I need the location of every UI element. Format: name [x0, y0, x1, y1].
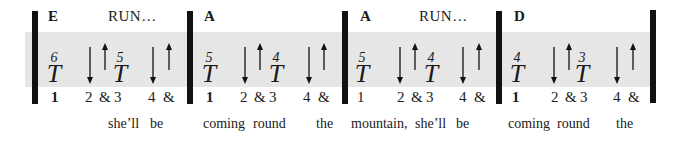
tab-note: 6 T — [44, 52, 64, 85]
beat-count: 4 — [613, 89, 621, 106]
beat-count: 1 — [512, 89, 520, 106]
bar-line — [32, 11, 38, 104]
beat-count: 4 — [303, 89, 311, 106]
up-arrow-icon — [628, 42, 638, 70]
tab-note: 4 T — [266, 52, 286, 85]
thumb-label: T — [44, 63, 64, 85]
beat-count: 2 — [551, 89, 559, 106]
chord-label: D — [514, 8, 525, 25]
lyric-word: coming — [203, 116, 245, 132]
beat-count: 1 — [206, 89, 214, 106]
beat-count: 3 — [580, 89, 588, 106]
bar-line-end — [650, 10, 656, 103]
down-arrow-icon — [458, 47, 468, 85]
thumb-label: T — [352, 63, 372, 85]
chord-label: E — [48, 8, 58, 25]
bar-line — [342, 11, 348, 104]
up-arrow-icon — [474, 42, 484, 70]
bar-line — [496, 11, 502, 104]
bar-line — [187, 11, 193, 104]
thumb-label: T — [507, 63, 527, 85]
beat-count: 1 — [51, 89, 59, 106]
tab-note: 4 T — [421, 52, 441, 85]
tab-note: 3 T — [572, 52, 592, 85]
lyric-word: she’ll — [415, 116, 446, 132]
up-arrow-icon — [410, 42, 420, 70]
beat-count: 2 — [240, 89, 248, 106]
lyric-word: be — [150, 116, 163, 132]
beat-count: & — [565, 89, 577, 106]
cue-text: RUN… — [108, 8, 157, 25]
beat-count: 2 — [85, 89, 93, 106]
beat-count: 1 — [357, 89, 365, 106]
lyric-word: round — [557, 116, 590, 132]
beat-count: & — [474, 89, 486, 106]
lyric-word: mountain, — [351, 116, 407, 132]
thumb-label: T — [266, 63, 286, 85]
beat-count: 3 — [114, 89, 122, 106]
lyric-word: she’ll — [108, 116, 139, 132]
thumb-label: T — [110, 63, 130, 85]
beat-count: 4 — [459, 89, 467, 106]
thumb-label: T — [199, 63, 219, 85]
cue-text: RUN… — [419, 8, 468, 25]
beat-count: & — [411, 89, 423, 106]
beat-count: & — [99, 89, 111, 106]
beat-count: 2 — [397, 89, 405, 106]
beat-count: & — [254, 89, 266, 106]
beat-count: 3 — [426, 89, 434, 106]
lyric-word: the — [616, 116, 633, 132]
chord-label: A — [204, 8, 215, 25]
tab-note: 5 T — [199, 52, 219, 85]
beat-count: & — [628, 89, 640, 106]
lyric-word: the — [316, 116, 333, 132]
down-arrow-icon — [85, 47, 95, 85]
thumb-label: T — [421, 63, 441, 85]
beat-count: 3 — [269, 89, 277, 106]
down-arrow-icon — [612, 47, 622, 85]
lyric-word: coming — [508, 116, 550, 132]
up-arrow-icon — [255, 42, 265, 70]
down-arrow-icon — [240, 47, 250, 85]
up-arrow-icon — [319, 42, 329, 70]
thumb-label: T — [572, 63, 592, 85]
down-arrow-icon — [395, 47, 405, 85]
tab-note: 5 T — [110, 52, 130, 85]
lyric-word: round — [253, 116, 286, 132]
down-arrow-icon — [304, 47, 314, 85]
down-arrow-icon — [148, 47, 158, 85]
chord-label: A — [360, 8, 371, 25]
tab-note: 4 T — [507, 52, 527, 85]
beat-count: & — [318, 89, 330, 106]
tab-note: 5 T — [352, 52, 372, 85]
beat-count: 4 — [148, 89, 156, 106]
up-arrow-icon — [100, 42, 110, 70]
up-arrow-icon — [164, 42, 174, 70]
down-arrow-icon — [549, 47, 559, 85]
lyric-word: be — [456, 116, 469, 132]
beat-count: & — [163, 89, 175, 106]
